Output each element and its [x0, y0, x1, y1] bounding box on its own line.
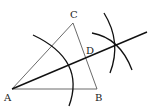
label-d: D — [86, 45, 94, 56]
label-b: B — [95, 92, 102, 103]
arc-from-ab — [92, 33, 132, 70]
angle-bisector-diagram: A B C D — [0, 0, 150, 110]
segment-ac — [12, 23, 73, 89]
arc-centered-at-a — [33, 35, 73, 106]
label-c: C — [70, 9, 78, 20]
label-a: A — [3, 92, 12, 103]
